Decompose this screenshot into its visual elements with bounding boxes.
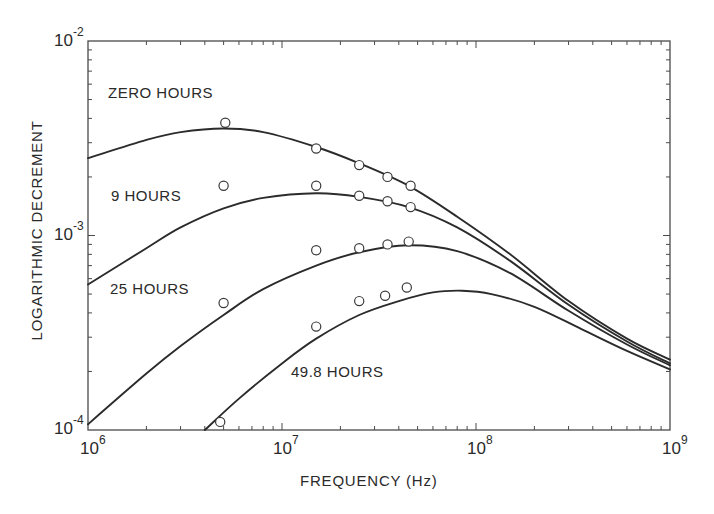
- data-point-circle: [404, 237, 413, 246]
- data-point-circle: [312, 181, 321, 190]
- data-point-circle: [355, 161, 364, 170]
- x-tick-label-1e8: 108: [467, 436, 493, 459]
- data-point-circle: [355, 244, 364, 253]
- x-tick-label-1e7: 107: [273, 436, 299, 459]
- series-label-9-hours: 9 HOURS: [111, 187, 181, 204]
- plot-area: [0, 0, 714, 514]
- data-point-circle: [312, 246, 321, 255]
- x-tick-label-1e6: 106: [80, 436, 106, 459]
- x-axis-title: FREQUENCY (Hz): [300, 472, 438, 489]
- y-tick-label-1e-2: 10-2: [54, 28, 84, 51]
- data-point-circle: [219, 298, 228, 307]
- data-point-circle: [406, 203, 415, 212]
- curve-zero-hours: [88, 129, 670, 360]
- data-point-circle: [355, 191, 364, 200]
- series-label-zero-hours: ZERO HOURS: [108, 84, 213, 101]
- series-label-49-8-hours: 49.8 HOURS: [291, 363, 384, 380]
- data-point-circle: [406, 181, 415, 190]
- curve-9-hours: [88, 193, 670, 363]
- data-point-circle: [219, 181, 228, 190]
- data-point-circle: [355, 297, 364, 306]
- data-point-circle: [221, 118, 230, 127]
- data-point-circle: [383, 197, 392, 206]
- series-label-25-hours: 25 HOURS: [110, 280, 189, 297]
- data-point-circle: [312, 144, 321, 153]
- data-point-circle: [381, 291, 390, 300]
- curve-25-hours: [88, 245, 670, 424]
- data-point-circle: [383, 240, 392, 249]
- y-axis-title: LOGARITHMIC DECREMENT: [28, 141, 45, 341]
- data-point-circle: [383, 172, 392, 181]
- data-point-circle: [216, 417, 225, 426]
- data-point-markers: [216, 118, 416, 426]
- y-tick-label-1e-3: 10-3: [54, 222, 84, 245]
- data-point-circle: [402, 283, 411, 292]
- curve-49-8-hours: [205, 291, 670, 430]
- data-point-circle: [312, 322, 321, 331]
- x-tick-label-1e9: 109: [662, 436, 688, 459]
